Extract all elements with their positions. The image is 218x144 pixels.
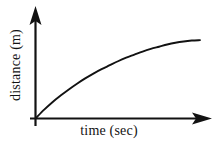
y-axis-label: distance (m) [7, 5, 25, 125]
data-series-curve [36, 40, 200, 118]
x-axis-label: time (sec) [0, 123, 218, 139]
y-axis-label-container: distance (m) [7, 5, 25, 125]
distance-time-graph-figure: distance (m) time (sec) [0, 0, 218, 144]
